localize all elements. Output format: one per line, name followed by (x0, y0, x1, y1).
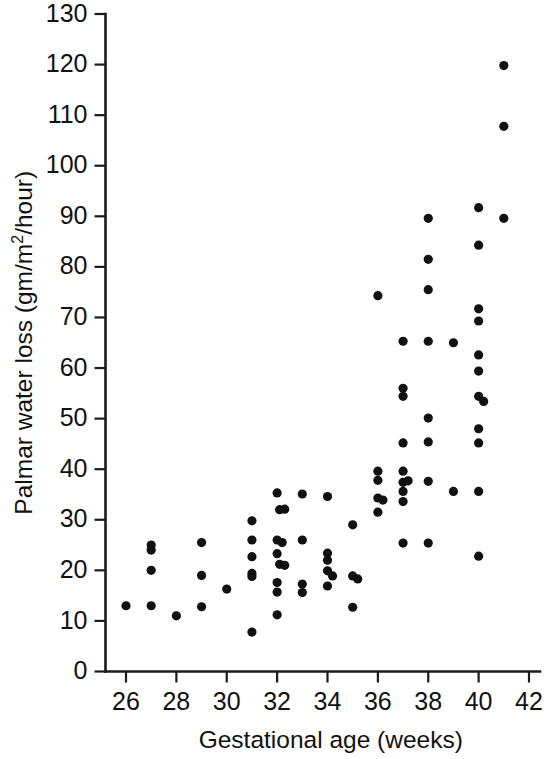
data-point (424, 538, 433, 547)
y-tick-label: 50 (60, 403, 88, 431)
x-tick-labels: 262830323436384042 (112, 687, 543, 715)
data-point (147, 601, 156, 610)
y-tick-label: 40 (60, 454, 88, 482)
data-point (298, 588, 307, 597)
data-point (373, 467, 382, 476)
y-axis-title: Palmar water loss (gm/m2/hour) (9, 171, 37, 515)
data-point (197, 571, 206, 580)
data-point (398, 478, 407, 487)
x-tick-label: 42 (515, 687, 543, 715)
data-point (373, 476, 382, 485)
y-tick-label: 70 (60, 302, 88, 330)
data-point (424, 477, 433, 486)
data-point (424, 437, 433, 446)
data-point (474, 350, 483, 359)
data-point (398, 487, 407, 496)
data-point (172, 611, 181, 620)
y-tick-label: 100 (46, 150, 88, 178)
data-point (398, 497, 407, 506)
y-tick-label: 110 (48, 100, 88, 128)
data-point (147, 566, 156, 575)
data-point (378, 495, 387, 504)
x-tick-label: 32 (263, 687, 291, 715)
data-point (273, 488, 282, 497)
data-point (147, 546, 156, 555)
data-point (424, 255, 433, 264)
data-point (398, 392, 407, 401)
data-point (298, 489, 307, 498)
x-tick-label: 40 (465, 687, 493, 715)
x-axis-title: Gestational age (weeks) (199, 726, 463, 753)
data-point (353, 574, 362, 583)
y-tick-label: 10 (60, 606, 88, 634)
data-point (474, 487, 483, 496)
data-point (247, 535, 256, 544)
x-tick-label: 26 (112, 687, 140, 715)
data-point (499, 214, 508, 223)
data-point (348, 520, 357, 529)
data-point (121, 601, 130, 610)
data-point (273, 549, 282, 558)
data-point (247, 552, 256, 561)
data-point (273, 587, 282, 596)
data-point (424, 214, 433, 223)
data-point (474, 316, 483, 325)
x-tick-label: 30 (213, 687, 241, 715)
data-point (424, 285, 433, 294)
data-point (398, 538, 407, 547)
data-point (424, 414, 433, 423)
scatter-chart: 0102030405060708090100110120130 26283032… (0, 0, 558, 759)
data-point (280, 505, 289, 514)
data-point (474, 304, 483, 313)
data-point (398, 438, 407, 447)
data-point (273, 610, 282, 619)
data-point (222, 584, 231, 593)
data-point (499, 122, 508, 131)
data-point (398, 384, 407, 393)
y-tick-label: 20 (60, 555, 88, 583)
data-point (197, 602, 206, 611)
x-tick-label: 36 (364, 687, 392, 715)
data-point (499, 61, 508, 70)
data-point (373, 291, 382, 300)
data-point (373, 508, 382, 517)
x-tick-label: 34 (314, 687, 342, 715)
y-tick-label: 30 (60, 504, 88, 532)
y-tick-labels: 0102030405060708090100110120130 (46, 0, 88, 684)
data-point (247, 627, 256, 636)
data-points (121, 61, 508, 637)
plot-svg: 0102030405060708090100110120130 26283032… (0, 0, 558, 759)
data-point (449, 338, 458, 347)
data-point (278, 538, 287, 547)
data-point (247, 572, 256, 581)
data-point (323, 492, 332, 501)
x-tick-label: 38 (414, 687, 442, 715)
data-point (474, 203, 483, 212)
data-point (273, 578, 282, 587)
data-point (298, 535, 307, 544)
data-point (479, 397, 488, 406)
data-point (474, 241, 483, 250)
data-point (474, 424, 483, 433)
data-point (474, 552, 483, 561)
data-point (328, 571, 337, 580)
data-point (398, 467, 407, 476)
data-point (197, 538, 206, 547)
data-point (280, 561, 289, 570)
data-point (424, 337, 433, 346)
data-point (323, 581, 332, 590)
data-point (298, 579, 307, 588)
tick-marks (95, 14, 530, 683)
y-tick-label: 60 (60, 353, 88, 381)
axes (106, 14, 541, 672)
y-tick-label: 0 (74, 656, 88, 684)
data-point (348, 603, 357, 612)
data-point (247, 516, 256, 525)
data-point (474, 366, 483, 375)
y-tick-label: 130 (46, 0, 88, 27)
data-point (323, 556, 332, 565)
x-tick-label: 28 (162, 687, 190, 715)
data-point (474, 438, 483, 447)
data-point (449, 487, 458, 496)
data-point (398, 337, 407, 346)
